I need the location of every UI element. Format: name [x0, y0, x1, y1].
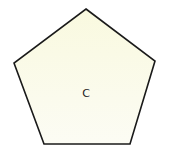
- pentagon-shape: [14, 9, 155, 144]
- diagram-canvas: C: [0, 0, 169, 155]
- pentagon-diagram: C: [0, 0, 169, 155]
- pentagon-label: C: [82, 87, 90, 100]
